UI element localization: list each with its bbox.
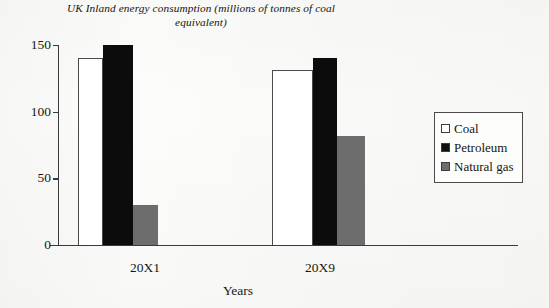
y-tick-label: 100 [31, 104, 51, 120]
y-tick-label: 50 [38, 170, 52, 186]
legend-item-natural-gas: Natural gas [441, 157, 514, 176]
y-axis-line [58, 45, 59, 246]
legend-swatch-petroleum-icon [441, 143, 450, 152]
y-tick-mark [53, 245, 59, 246]
bar-coal-20x1 [78, 58, 103, 245]
bar-petroleum-20x9 [313, 58, 337, 245]
legend-swatch-natural-gas-icon [441, 162, 450, 171]
legend-label-petroleum: Petroleum [454, 141, 507, 154]
y-tick-mark [53, 112, 59, 113]
y-tick-mark [53, 178, 59, 179]
x-axis-line [50, 245, 518, 246]
bar-natural-gas-20x9 [337, 136, 365, 245]
legend-item-petroleum: Petroleum [441, 138, 514, 157]
chart-legend: Coal Petroleum Natural gas [434, 112, 523, 183]
chart-title-line-1: UK Inland energy consumption (millions o… [67, 2, 267, 14]
legend-item-coal: Coal [441, 119, 514, 138]
y-tick-label: 150 [31, 37, 51, 53]
bar-petroleum-20x1 [103, 45, 133, 245]
legend-label-natural-gas: Natural gas [454, 160, 514, 173]
y-tick-mark [53, 45, 59, 46]
chart-title: UK Inland energy consumption (millions o… [56, 2, 346, 29]
x-category-label-20x1: 20X1 [130, 260, 160, 276]
bar-coal-20x9 [272, 70, 313, 245]
plot-area: 0 50 100 150 20X1 20X9 [58, 45, 418, 245]
x-axis-title: Years [58, 283, 418, 299]
x-category-label-20x9: 20X9 [305, 260, 335, 276]
bar-natural-gas-20x1 [133, 205, 158, 245]
y-tick-label: 0 [44, 237, 51, 253]
legend-swatch-coal-icon [441, 124, 450, 133]
chart-page: UK Inland energy consumption (millions o… [0, 0, 549, 308]
legend-label-coal: Coal [454, 122, 479, 135]
